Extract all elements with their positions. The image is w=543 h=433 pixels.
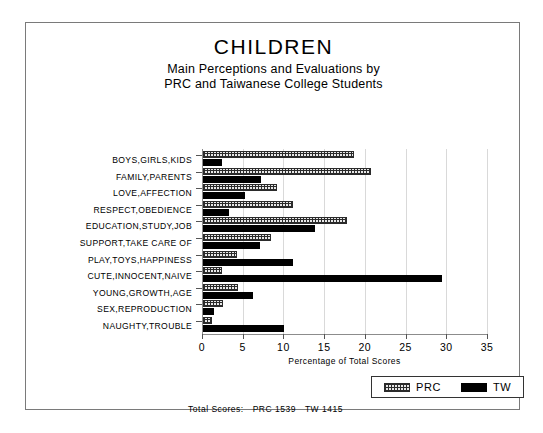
category-label: NAUGHTY,TROUBLE <box>103 321 192 331</box>
gridline <box>406 149 407 335</box>
bar-tw <box>203 176 261 183</box>
x-axis-tick-label: 10 <box>277 341 290 353</box>
subtitle-line-2: PRC and Taiwanese College Students <box>26 77 521 92</box>
y-axis-tick <box>196 238 202 239</box>
y-axis-tick <box>196 172 202 173</box>
y-axis-tick <box>196 221 202 222</box>
x-axis-tick-label: 15 <box>318 341 331 353</box>
bar-prc <box>203 251 237 258</box>
hatched-swatch <box>384 383 410 392</box>
bar-prc <box>203 300 223 307</box>
category-label: SEX,REPRODUCTION <box>97 304 192 314</box>
legend-item: PRC <box>384 381 441 393</box>
x-axis-tick-label: 20 <box>359 341 372 353</box>
bar-tw <box>203 259 293 266</box>
bar-tw <box>203 325 284 332</box>
footer-label: Total Scores: <box>188 404 244 414</box>
category-label: FAMILY,PARENTS <box>116 172 192 182</box>
legend-label: PRC <box>416 381 441 393</box>
chart-frame: CHILDREN Main Perceptions and Evaluation… <box>25 22 520 410</box>
category-label: SUPPORT,TAKE CARE OF <box>80 238 192 248</box>
bar-tw <box>203 308 214 315</box>
x-axis-tick <box>243 334 244 339</box>
bar-prc <box>203 184 277 191</box>
category-label: PLAY,TOYS,HAPPINESS <box>88 255 192 265</box>
bar-tw <box>203 292 253 299</box>
y-axis-tick <box>196 304 202 305</box>
x-axis-line <box>202 334 487 335</box>
x-axis-tick <box>406 334 407 339</box>
title-block: CHILDREN Main Perceptions and Evaluation… <box>26 35 521 92</box>
bar-prc <box>203 201 293 208</box>
legend-item: TW <box>461 381 511 393</box>
footer-prc: PRC 1539 <box>253 404 296 414</box>
gridline <box>487 149 488 335</box>
category-label: LOVE,AFFECTION <box>113 188 192 198</box>
footer-tw: TW 1415 <box>305 404 343 414</box>
bar-prc <box>203 168 371 175</box>
bar-prc <box>203 284 238 291</box>
footer-total-scores: Total Scores:PRC 1539TW 1415 <box>26 404 521 414</box>
chart-page: CHILDREN Main Perceptions and Evaluation… <box>0 0 543 433</box>
y-axis-tick <box>196 205 202 206</box>
plot-area: 05101520253035 BOYS,GIRLS,KIDSFAMILY,PAR… <box>202 149 487 335</box>
y-axis-tick <box>196 271 202 272</box>
x-axis-tick <box>446 334 447 339</box>
category-label: RESPECT,OBEDIENCE <box>93 205 192 215</box>
x-axis-tick-label: 25 <box>399 341 412 353</box>
bar-tw <box>203 275 442 282</box>
x-axis-tick-label: 5 <box>240 341 246 353</box>
x-axis-tick <box>202 334 203 339</box>
y-axis-tick <box>196 288 202 289</box>
bar-tw <box>203 225 315 232</box>
bar-prc <box>203 151 354 158</box>
x-axis-title: Percentage of Total Scores <box>202 356 487 366</box>
y-axis-tick <box>196 321 202 322</box>
gridline <box>446 149 447 335</box>
x-axis-tick <box>365 334 366 339</box>
bar-prc <box>203 234 271 241</box>
bar-prc <box>203 217 347 224</box>
y-axis-tick <box>196 155 202 156</box>
x-axis-tick <box>487 334 488 339</box>
category-label: BOYS,GIRLS,KIDS <box>112 155 192 165</box>
legend: PRCTW <box>371 376 524 398</box>
category-label: YOUNG,GROWTH,AGE <box>93 288 192 298</box>
solid-black-swatch <box>461 383 487 392</box>
x-axis-tick <box>283 334 284 339</box>
gridline <box>324 149 325 335</box>
subtitle-line-1: Main Perceptions and Evaluations by <box>26 62 521 77</box>
bar-prc <box>203 317 212 324</box>
category-label: EDUCATION,STUDY,JOB <box>86 221 192 231</box>
bar-tw <box>203 209 229 216</box>
x-axis-tick-label: 30 <box>440 341 453 353</box>
x-axis-tick-label: 35 <box>481 341 494 353</box>
y-axis-tick <box>196 188 202 189</box>
bar-tw <box>203 242 260 249</box>
bar-prc <box>203 267 222 274</box>
legend-label: TW <box>493 381 511 393</box>
bar-tw <box>203 192 245 199</box>
category-label: CUTE,INNOCENT,NAIVE <box>87 271 192 281</box>
gridline <box>365 149 366 335</box>
y-axis-tick <box>196 255 202 256</box>
bar-tw <box>203 159 222 166</box>
x-axis-tick-label: 0 <box>199 341 205 353</box>
gridline <box>283 149 284 335</box>
x-axis-tick <box>324 334 325 339</box>
page-title: CHILDREN <box>26 35 521 59</box>
